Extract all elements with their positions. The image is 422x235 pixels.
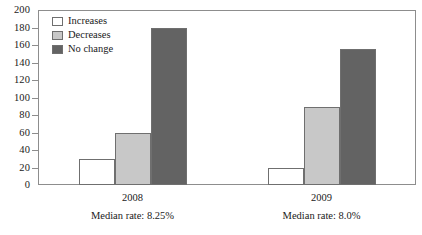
bar-2008-decreases: [115, 133, 151, 186]
x-group-label: 2008Median rate: 8.25%: [38, 185, 227, 222]
legend-swatch-icon: [52, 45, 63, 54]
legend-label: Decreases: [68, 30, 111, 41]
x-group-year: 2008: [38, 191, 227, 204]
bar-2009-decreases: [304, 107, 340, 185]
bar-2008-no-change: [151, 28, 187, 186]
x-group-year: 2009: [227, 191, 416, 204]
grouped-bar-chart: 200180160140120100806040200 IncreasesDec…: [0, 0, 422, 235]
y-tick-label: 40: [19, 145, 30, 156]
y-axis: 200180160140120100806040200: [0, 10, 30, 185]
legend-item-increases: Increases: [52, 15, 113, 28]
chart-legend: IncreasesDecreasesNo change: [50, 14, 115, 58]
y-tick-label: 100: [14, 92, 30, 103]
y-tick-label: 140: [14, 57, 30, 68]
y-tick-label: 200: [14, 5, 30, 16]
legend-label: No change: [68, 44, 113, 55]
y-tick-label: 0: [25, 180, 30, 191]
x-group-median-rate: Median rate: 8.25%: [38, 209, 227, 222]
legend-swatch-icon: [52, 31, 63, 40]
x-group-label: 2009Median rate: 8.0%: [227, 185, 416, 222]
y-tick-label: 180: [14, 22, 30, 33]
legend-item-decreases: Decreases: [52, 29, 113, 42]
bar-2008-increases: [79, 159, 115, 185]
legend-item-no-change: No change: [52, 43, 113, 56]
bar-2009-no-change: [340, 49, 376, 185]
y-tick-label: 120: [14, 75, 30, 86]
legend-swatch-icon: [52, 17, 63, 26]
legend-label: Increases: [68, 16, 107, 27]
x-group-median-rate: Median rate: 8.0%: [227, 209, 416, 222]
y-tick-label: 160: [14, 40, 30, 51]
y-tick-label: 20: [19, 162, 30, 173]
y-tick-label: 60: [19, 127, 30, 138]
bar-2009-increases: [268, 168, 304, 186]
y-tick-label: 80: [19, 110, 30, 121]
